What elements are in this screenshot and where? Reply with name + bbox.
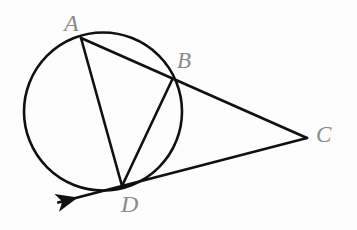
segment-ac xyxy=(81,38,307,138)
segment-ad xyxy=(81,38,122,186)
segment-bd xyxy=(122,80,172,186)
vertex-label-d: D xyxy=(121,192,138,216)
vertex-label-b: B xyxy=(177,49,191,72)
vertex-label-c: C xyxy=(316,123,331,146)
segment-dc xyxy=(122,138,307,186)
geometry-figure: A B C D xyxy=(0,0,357,230)
geometry-canvas xyxy=(0,0,357,230)
vertex-label-a: A xyxy=(64,11,79,35)
